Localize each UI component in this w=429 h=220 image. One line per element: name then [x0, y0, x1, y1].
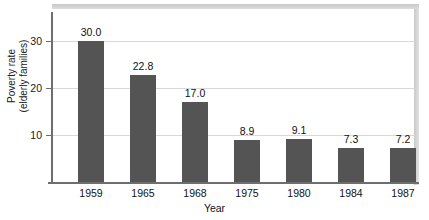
bar-1975	[234, 140, 260, 182]
x-tick-label-1984: 1984	[327, 188, 375, 199]
bar-value-1980: 9.1	[279, 125, 319, 136]
bar-1987	[390, 148, 416, 182]
bar-1968	[182, 102, 208, 182]
bar-value-1968: 17.0	[175, 88, 215, 99]
x-tick-label-1959: 1959	[67, 188, 115, 199]
x-axis-title: Year	[0, 202, 429, 214]
bar-value-1987: 7.2	[383, 134, 423, 145]
x-tick-label-1987: 1987	[379, 188, 427, 199]
x-tick-label-1980: 1980	[275, 188, 323, 199]
bar-value-1984: 7.3	[331, 134, 371, 145]
x-tick-label-1968: 1968	[171, 188, 219, 199]
bar-1984	[338, 148, 364, 182]
x-axis-line	[48, 182, 419, 184]
x-tick-label-1965: 1965	[119, 188, 167, 199]
bar-value-1959: 30.0	[71, 27, 111, 38]
bar-1980	[286, 139, 312, 182]
bar-chart-figure: Poverty rate (elderly families) 102030 3…	[0, 0, 429, 220]
bar-value-1965: 22.8	[123, 61, 163, 72]
bar-1959	[78, 41, 104, 182]
x-tick-label-1975: 1975	[223, 188, 271, 199]
bar-1965	[130, 75, 156, 182]
bar-value-1975: 8.9	[227, 126, 267, 137]
